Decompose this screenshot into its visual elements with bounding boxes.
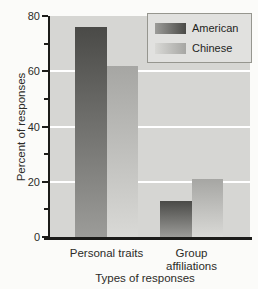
y-tick-major-80	[42, 15, 48, 17]
y-tick-major-40	[42, 126, 48, 128]
legend-item-american: American	[148, 22, 251, 35]
legend-label-american: American	[192, 22, 238, 35]
legend-label-chinese: Chinese	[192, 42, 232, 55]
y-tick-minor-10	[44, 208, 48, 210]
y-tick-minor-70	[44, 43, 48, 45]
y-tick-minor-30	[44, 153, 48, 155]
y-tick-major-0	[42, 236, 48, 238]
bar-american-group-affiliations	[160, 201, 192, 237]
x-axis-line	[44, 237, 252, 240]
y-tick-major-60	[42, 70, 48, 72]
bar-chinese-group-affiliations	[192, 179, 224, 237]
bar-chinese-personal-traits	[107, 66, 139, 237]
legend-swatch-chinese	[155, 43, 186, 54]
legend-box: AmericanChinese	[147, 13, 252, 63]
legend-swatch-american	[155, 23, 186, 34]
bar-american-personal-traits	[75, 27, 107, 237]
y-tick-label-80: 80	[14, 9, 40, 23]
y-axis-line	[48, 16, 50, 238]
category-label-group-affiliations: Group affiliations	[150, 247, 234, 273]
y-tick-label-0: 0	[14, 230, 40, 244]
y-axis-title: Percent of responses	[15, 67, 29, 187]
x-axis-title: Types of responses	[45, 272, 245, 284]
category-label-personal-traits: Personal traits	[65, 247, 149, 260]
y-tick-minor-50	[44, 98, 48, 100]
y-tick-major-20	[42, 181, 48, 183]
legend-item-chinese: Chinese	[148, 42, 251, 55]
bar-chart-figure: 020406080 Percent of responses Personal …	[0, 0, 258, 289]
